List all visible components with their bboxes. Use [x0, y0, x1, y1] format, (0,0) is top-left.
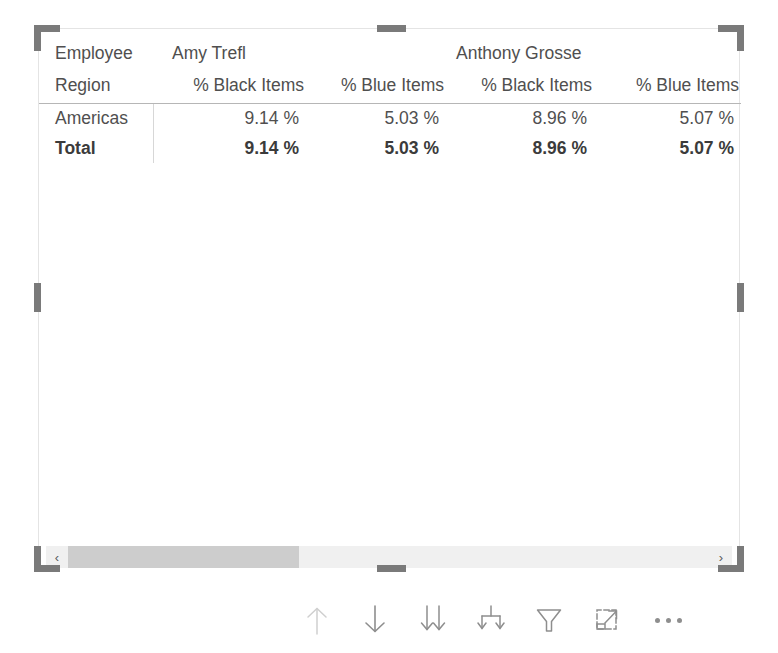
matrix-visual-container[interactable]: Employee Amy Trefl Anthony Grosse Region… [38, 28, 740, 568]
column-group-header-anthony-grosse[interactable]: Anthony Grosse [446, 38, 741, 69]
resize-handle-middle-left[interactable] [34, 283, 41, 312]
cell-americas-black-anthony[interactable]: 8.96 % [446, 103, 594, 133]
matrix-measure-header-row: Region % Black Items % Blue Items % Blac… [39, 69, 741, 103]
expand-all-down-button[interactable] [474, 603, 508, 637]
table-row[interactable]: Americas 9.14 % 5.03 % 8.96 % 5.07 % [39, 103, 741, 133]
cell-americas-blue-anthony[interactable]: 5.07 % [594, 103, 741, 133]
drill-up-button[interactable] [300, 603, 334, 637]
filter-funnel-icon [534, 605, 564, 635]
drill-down-arrow-icon [362, 605, 388, 635]
cell-total-blue-amy[interactable]: 5.03 % [306, 133, 446, 163]
total-gap-cell [153, 133, 162, 163]
matrix-table: Employee Amy Trefl Anthony Grosse Region… [39, 38, 741, 163]
focus-mode-icon [593, 606, 621, 634]
cell-americas-blue-amy[interactable]: 5.03 % [306, 103, 446, 133]
measure-header-black-items-amy[interactable]: % Black Items [162, 69, 306, 103]
more-options-ellipsis-icon [655, 618, 660, 623]
table-row-total[interactable]: Total 9.14 % 5.03 % 8.96 % 5.07 % [39, 133, 741, 163]
cell-total-black-anthony[interactable]: 8.96 % [446, 133, 594, 163]
row-gap-cell [153, 103, 162, 133]
cell-total-black-amy[interactable]: 9.14 % [162, 133, 306, 163]
resize-handle-middle-right[interactable] [737, 283, 744, 312]
more-options-button[interactable] [648, 603, 688, 637]
measure-header-blue-items-amy[interactable]: % Blue Items [306, 69, 446, 103]
more-options-ellipsis-icon [666, 618, 671, 623]
resize-handle-top-center[interactable] [377, 25, 406, 32]
resize-handle-bottom-center[interactable] [377, 565, 406, 572]
row-hierarchy-label-region[interactable]: Region [39, 69, 153, 103]
resize-handle-top-right-vertical[interactable] [737, 25, 744, 51]
matrix-table-wrapper[interactable]: Employee Amy Trefl Anthony Grosse Region… [39, 29, 739, 567]
matrix-column-group-header-row: Employee Amy Trefl Anthony Grosse [39, 38, 741, 69]
screenshot-root: Employee Amy Trefl Anthony Grosse Region… [0, 0, 778, 653]
resize-handle-bottom-right-horizontal[interactable] [718, 565, 744, 572]
row-hierarchy-label-employee[interactable]: Employee [39, 38, 153, 69]
resize-handle-top-left-vertical[interactable] [34, 25, 41, 51]
row-label-americas[interactable]: Americas [39, 103, 153, 133]
more-options-ellipsis-icon [677, 618, 682, 623]
header-gap-cell [153, 38, 162, 69]
drill-up-arrow-icon [304, 605, 330, 635]
measure-header-gap-cell [153, 69, 162, 103]
row-label-total: Total [39, 133, 153, 163]
column-group-header-amy-trefl[interactable]: Amy Trefl [162, 38, 446, 69]
go-to-next-level-button[interactable] [416, 603, 450, 637]
measure-header-black-items-anthony[interactable]: % Black Items [446, 69, 594, 103]
expand-next-level-icon [419, 605, 447, 635]
focus-mode-button[interactable] [590, 603, 624, 637]
filter-button[interactable] [532, 603, 566, 637]
visual-header-toolbar[interactable] [300, 592, 720, 648]
expand-all-down-icon [477, 605, 505, 635]
scrollbar-thumb[interactable] [68, 546, 299, 568]
cell-total-blue-anthony[interactable]: 5.07 % [594, 133, 741, 163]
resize-handle-bottom-left-horizontal[interactable] [34, 565, 60, 572]
cell-americas-black-amy[interactable]: 9.14 % [162, 103, 306, 133]
drill-down-button[interactable] [358, 603, 392, 637]
measure-header-blue-items-anthony[interactable]: % Blue Items [594, 69, 741, 103]
